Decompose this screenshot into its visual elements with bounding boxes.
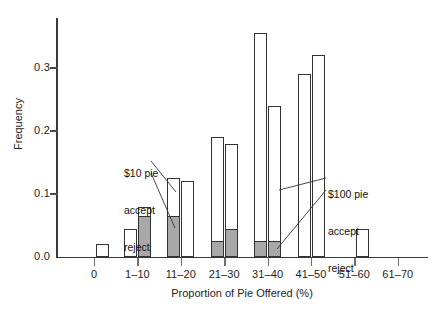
plot-area	[0, 0, 440, 309]
annotation-hundred-pie: $100 pie accept reject	[328, 164, 368, 298]
bar	[254, 33, 267, 257]
bar	[298, 74, 311, 257]
bar	[211, 137, 224, 257]
bar-reject-segment	[225, 229, 238, 257]
annotation-ten-pie: $10 pie accept reject	[124, 143, 158, 277]
bar	[312, 55, 325, 257]
annotation-ten-pie-accept: accept	[124, 204, 158, 216]
bar-reject-segment	[211, 241, 224, 257]
bar-reject-segment	[167, 216, 180, 257]
annotation-ten-pie-title: $10 pie	[124, 167, 158, 179]
histogram-figure: 0.00.10.20.3 01–1011–2021–3031–4041–5051…	[0, 0, 440, 309]
bar-reject-segment	[254, 241, 267, 257]
bar	[181, 181, 194, 257]
bar-reject-segment	[268, 241, 281, 257]
bar	[96, 244, 109, 257]
annotation-hundred-pie-reject: reject	[328, 262, 368, 274]
annotation-ten-pie-reject: reject	[124, 241, 158, 253]
annotation-hundred-pie-accept: accept	[328, 225, 368, 237]
annotation-hundred-pie-title: $100 pie	[328, 188, 368, 200]
bar	[268, 106, 281, 257]
